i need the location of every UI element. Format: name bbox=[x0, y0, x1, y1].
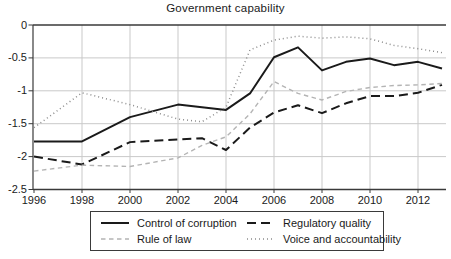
y-tick-label: -1 bbox=[17, 84, 27, 96]
legend-item-rule-of-law: Rule of law bbox=[100, 233, 246, 245]
x-tick-label: 1998 bbox=[70, 194, 94, 206]
y-tick-label: -1.5 bbox=[8, 117, 27, 129]
legend-label: Rule of law bbox=[137, 233, 191, 245]
legend-item-regulatory-quality: Regulatory quality bbox=[246, 217, 401, 229]
regulatory-quality-line-sample bbox=[246, 218, 276, 228]
y-tick-label: -2 bbox=[17, 150, 27, 162]
rule-of-law-line-sample bbox=[100, 234, 130, 244]
legend: Control of corruption Regulatory quality… bbox=[90, 211, 384, 251]
x-tick-label: 2008 bbox=[310, 194, 334, 206]
legend-item-control-of-corruption: Control of corruption bbox=[100, 217, 246, 229]
x-tick-label: 2004 bbox=[214, 194, 238, 206]
control-of-corruption-line bbox=[34, 47, 442, 141]
legend-label: Control of corruption bbox=[137, 217, 237, 229]
x-tick-label: 2002 bbox=[166, 194, 190, 206]
x-tick-label: 2012 bbox=[406, 194, 430, 206]
legend-label: Voice and accountability bbox=[283, 233, 401, 245]
government-capability-chart: Government capability 0-0.5-1-1.5-2-2.51… bbox=[0, 0, 451, 259]
y-tick-label: 0 bbox=[21, 19, 27, 31]
legend-label: Regulatory quality bbox=[283, 217, 371, 229]
y-tick-label: -0.5 bbox=[8, 51, 27, 63]
regulatory-quality-line bbox=[34, 85, 442, 165]
control-of-corruption-line-sample bbox=[100, 218, 130, 228]
legend-item-voice-and-accountability: Voice and accountability bbox=[246, 233, 401, 245]
voice-and-accountability-line-sample bbox=[246, 234, 276, 244]
x-tick-label: 2000 bbox=[118, 194, 142, 206]
x-tick-label: 1996 bbox=[22, 194, 46, 206]
x-tick-label: 2010 bbox=[358, 194, 382, 206]
x-tick-label: 2006 bbox=[262, 194, 286, 206]
voice-and-accountability-line bbox=[34, 36, 442, 127]
